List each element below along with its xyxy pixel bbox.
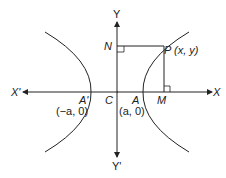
- right-angle-m: [164, 86, 170, 92]
- hyperbola-diagram: Y Y' X' X N P (x, y) A' (−a, 0) C A (a, …: [0, 0, 226, 178]
- label-n: N: [104, 40, 112, 52]
- label-c: C: [105, 94, 113, 106]
- label-y-prime: Y': [112, 160, 121, 172]
- label-y: Y: [113, 8, 121, 20]
- label-p: P (x, y): [164, 44, 199, 56]
- diagram-canvas: Y Y' X' X N P (x, y) A' (−a, 0) C A (a, …: [0, 0, 226, 178]
- label-x: X: [212, 86, 221, 98]
- right-angle-n: [117, 46, 124, 52]
- label-x-prime: X': [10, 86, 21, 98]
- label-m: M: [157, 94, 167, 106]
- label-a-coord: (a, 0): [119, 105, 145, 117]
- label-a-prime-coord: (−a, 0): [56, 105, 88, 117]
